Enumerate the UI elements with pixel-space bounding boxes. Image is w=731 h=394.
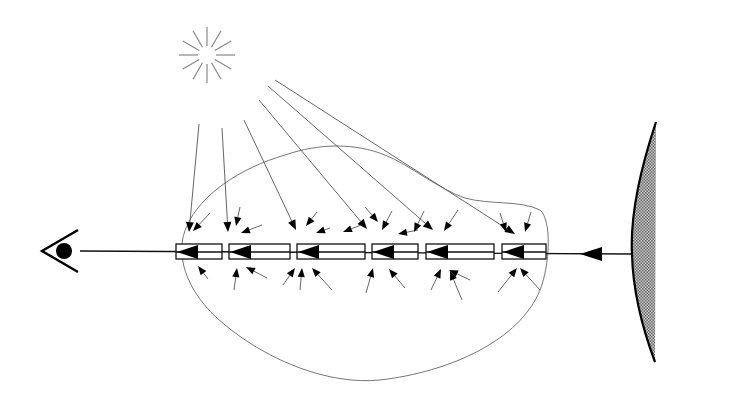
radiative-transfer-diagram [0,0,731,394]
sun-icon [179,27,235,83]
volume-element-box [297,244,365,259]
volume-element-box [229,244,290,259]
arrowhead-icon [382,220,389,230]
arrowhead-icon [298,268,305,277]
arrowhead-icon [389,269,398,278]
volume-element-box [426,244,494,259]
arrowhead-icon [358,219,367,229]
arrowhead-icon [434,269,441,279]
arrowhead-icon [241,226,251,233]
arrowhead-icon [198,266,206,275]
arrowhead-icon [287,268,295,277]
arrowhead-icon [223,222,231,232]
arrowhead-icon [500,222,507,232]
arrowhead-icon [186,222,194,232]
volume-element-box [372,244,418,259]
arrowhead-icon [524,222,531,232]
arrowhead-icon [234,216,241,226]
medium-boundary [182,146,549,381]
volume-element-box [176,244,222,259]
volume-element-box [502,244,546,259]
arrowhead-icon [509,268,517,277]
arrowhead-icon [246,267,256,274]
arrowhead-icon [444,222,452,231]
arrowhead-icon [306,217,314,226]
arrowhead-icon [414,222,421,232]
surface-emission-arrow [580,247,602,261]
arrowhead-icon [343,225,353,232]
incident-sunlight-rays [186,80,515,234]
arrowhead-icon [316,227,326,234]
arrowhead-icon [232,268,239,277]
volume-elements [176,244,546,259]
arrowhead-icon [288,219,296,230]
arrowhead-icon [367,268,374,278]
eye-icon [42,230,78,272]
arrowhead-icon [398,229,408,236]
arrowhead-icon [423,220,433,230]
